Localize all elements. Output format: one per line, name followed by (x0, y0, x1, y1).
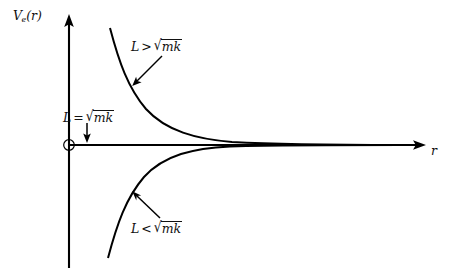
plot-canvas (0, 0, 452, 280)
annotation-arrows-group (83, 56, 162, 218)
annotation-label-equals: L= √mk (63, 110, 114, 124)
curve-lower-branch (108, 145, 400, 258)
annotation-label-less-than: L< √mk (131, 221, 182, 235)
x-axis-label: r (431, 145, 437, 158)
y-axis-label-argument: (r) (26, 8, 42, 23)
annotation-radical: √mk (154, 39, 182, 53)
annotation-label-greater-than: L> √mk (131, 39, 182, 53)
annotation-relation-less: < (139, 221, 153, 236)
annotation-relation-greater: > (139, 39, 153, 54)
radical-surd-icon: √ (154, 220, 162, 235)
arrow-to-lower-branch (137, 196, 160, 218)
effective-potential-figure: Ve(r) r L> √mk L= √mk L< √mk (0, 0, 452, 280)
y-axis-label-variable: V (13, 8, 22, 23)
radical-surd-icon: √ (154, 38, 162, 53)
radical-surd-icon: √ (86, 109, 94, 124)
x-axis-label-variable: r (431, 143, 437, 158)
annotation-radical: √mk (154, 221, 182, 235)
annotation-radicand: mk (161, 39, 182, 53)
axes-group (64, 14, 426, 268)
annotation-radicand: mk (161, 221, 182, 235)
annotation-radical: √mk (86, 110, 114, 124)
arrow-to-upper-branch (137, 56, 162, 81)
annotation-radicand: mk (93, 110, 114, 124)
annotation-relation-equals: = (71, 110, 85, 125)
y-axis-label: Ve(r) (13, 10, 42, 24)
